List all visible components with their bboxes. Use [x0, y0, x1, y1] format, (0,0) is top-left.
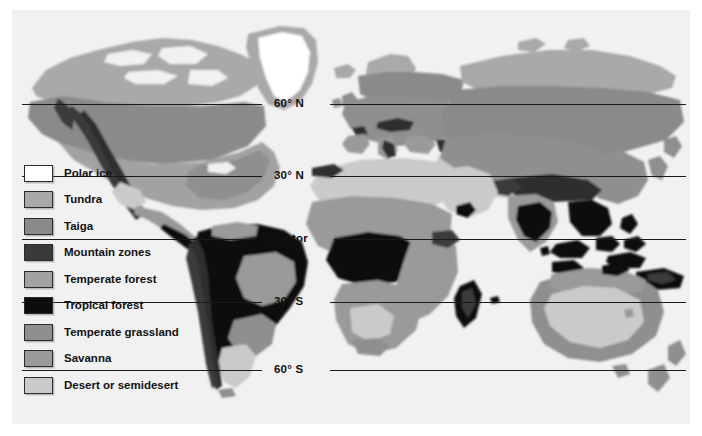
legend-label: Savanna — [64, 353, 111, 365]
legend-item: Tundra — [24, 187, 179, 214]
legend-swatch — [24, 350, 53, 367]
legend-item: Taiga — [24, 213, 179, 240]
latitude-line-segment — [330, 302, 686, 303]
legend-swatch — [24, 244, 53, 261]
latitude-label: 30° N — [274, 170, 304, 182]
biome-map-figure: 60° N30° NEquator30° S60° S Polar iceTun… — [0, 0, 702, 436]
legend-item: Polar ice — [24, 160, 179, 187]
biome-legend: Polar iceTundraTaigaMountain zonesTemper… — [24, 160, 179, 399]
latitude-label: 60° S — [274, 364, 303, 376]
legend-swatch — [24, 297, 53, 314]
legend-swatch — [24, 165, 53, 182]
legend-swatch — [24, 191, 53, 208]
latitude-line-segment — [330, 370, 686, 371]
legend-item: Tropical forest — [24, 293, 179, 320]
latitude-label: 30° S — [274, 296, 303, 308]
legend-label: Temperate forest — [64, 274, 156, 286]
legend-label: Polar ice — [64, 168, 112, 180]
legend-item: Savanna — [24, 346, 179, 373]
legend-swatch — [24, 377, 53, 394]
legend-item: Temperate grassland — [24, 319, 179, 346]
latitude-line-segment — [334, 239, 686, 240]
latitude-label: 60° N — [274, 98, 304, 110]
legend-label: Desert or semidesert — [64, 380, 178, 392]
legend-label: Mountain zones — [64, 247, 151, 259]
legend-label: Tropical forest — [64, 300, 143, 312]
legend-label: Tundra — [64, 194, 102, 206]
legend-label: Temperate grassland — [64, 327, 179, 339]
legend-item: Temperate forest — [24, 266, 179, 293]
legend-item: Desert or semidesert — [24, 372, 179, 399]
latitude-line-segment — [22, 104, 262, 105]
latitude-line-segment — [330, 176, 686, 177]
latitude-line-segment — [330, 104, 686, 105]
latitude-label: Equator — [263, 233, 308, 245]
legend-label: Taiga — [64, 221, 93, 233]
legend-swatch — [24, 324, 53, 341]
legend-item: Mountain zones — [24, 240, 179, 267]
legend-swatch — [24, 218, 53, 235]
legend-swatch — [24, 271, 53, 288]
